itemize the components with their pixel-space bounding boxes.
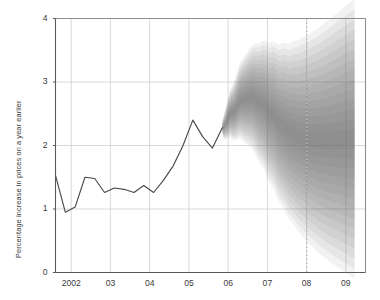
y-tick-label: 3	[34, 76, 48, 86]
x-tick-label: 06	[211, 278, 245, 288]
x-tick-label: 05	[172, 278, 206, 288]
chart-plot-area	[0, 0, 380, 300]
x-tick-label: 04	[133, 278, 167, 288]
x-tick-label: 07	[250, 278, 284, 288]
y-tick-label: 2	[34, 140, 48, 150]
x-tick-label: 08	[290, 278, 324, 288]
y-tick-label: 1	[34, 203, 48, 213]
y-axis-title: Percentage increase in prices on a year …	[14, 100, 23, 258]
fan-chart-figure: Percentage increase in prices on a year …	[0, 0, 380, 300]
y-tick-label: 0	[34, 267, 48, 277]
x-tick-label: 2002	[54, 278, 88, 288]
x-tick-label: 03	[93, 278, 127, 288]
x-tick-label: 09	[329, 278, 363, 288]
y-tick-label: 4	[34, 13, 48, 23]
